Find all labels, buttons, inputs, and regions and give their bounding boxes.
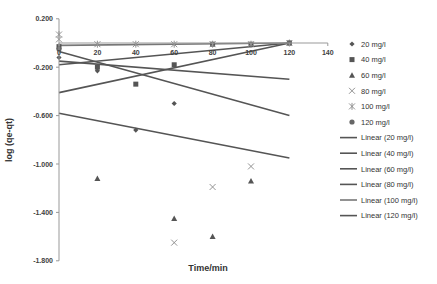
y-tick-label: -0.600 [33, 112, 53, 119]
marker-square-icon [350, 57, 355, 62]
y-tick-label: -0.200 [33, 64, 53, 71]
marker-triangle-icon [94, 176, 100, 182]
plot-area [56, 31, 292, 246]
marker-square-icon [133, 82, 138, 87]
marker-triangle-icon [171, 215, 177, 221]
marker-square-icon [95, 65, 100, 70]
marker-diamond-icon [349, 41, 354, 46]
legend-item-label: 60 mg/l [361, 71, 386, 80]
marker-x-icon [248, 163, 254, 169]
legend-item-label: 120 mg/l [361, 118, 390, 127]
marker-triangle-icon [210, 234, 216, 240]
y-tick-label: -1.800 [33, 257, 53, 264]
x-tick-label: 100 [245, 49, 257, 56]
legend-item-label: Linear (100 mg/l) [361, 196, 418, 205]
x-tick-label: 120 [284, 49, 296, 56]
legend-item-label: Linear (80 mg/l) [361, 180, 414, 189]
chart: 0.200-0.200-0.600-1.000-1.400-1.80002040… [0, 0, 437, 284]
legend-item-label: 80 mg/l [361, 87, 386, 96]
legend-item-label: Linear (20 mg/l) [361, 133, 414, 142]
marker-triangle-icon [248, 178, 254, 184]
legend: 20 mg/l40 mg/l60 mg/l80 mg/l100 mg/l120 … [340, 40, 418, 221]
x-tick-label: 140 [322, 49, 334, 56]
legend-item-label: 40 mg/l [361, 55, 386, 64]
y-tick-label: 0.200 [35, 15, 53, 22]
x-axis-title: Time/min [188, 263, 227, 273]
y-tick-label: -1.000 [33, 161, 53, 168]
marker-x-icon [171, 240, 177, 246]
trendline [59, 113, 289, 158]
marker-triangle-icon [349, 72, 355, 78]
x-tick-label: 40 [132, 49, 140, 56]
x-tick-label: 0 [57, 49, 61, 56]
marker-x-icon [349, 88, 355, 94]
y-tick-label: -1.400 [33, 209, 53, 216]
marker-square-icon [172, 62, 177, 67]
y-axis-title: log (qe-qt) [4, 118, 14, 162]
x-tick-label: 20 [94, 49, 102, 56]
x-tick-label: 60 [170, 49, 178, 56]
legend-item-label: Linear (60 mg/l) [361, 165, 414, 174]
x-tick-label: 80 [209, 49, 217, 56]
legend-item-label: Linear (40 mg/l) [361, 149, 414, 158]
marker-diamond-icon [172, 101, 177, 106]
legend-item-label: Linear (120 mg/l) [361, 211, 418, 220]
marker-star-icon [349, 103, 355, 110]
legend-item-label: 100 mg/l [361, 102, 390, 111]
marker-circle-icon [349, 119, 354, 124]
marker-x-icon [210, 184, 216, 190]
legend-item-label: 20 mg/l [361, 40, 386, 49]
